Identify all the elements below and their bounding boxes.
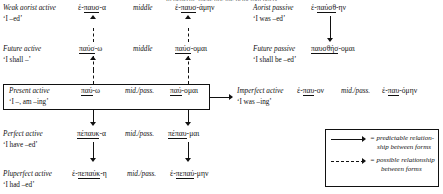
pluperfect-voice-midpass: mid./pass. — [127, 170, 156, 178]
imperfect-midpass-form: ἐ-παυ-όμην — [382, 87, 417, 96]
present-midpass-stem: παύ — [170, 86, 182, 96]
weak-aorist-active-form: ἐ-παυσ-α — [78, 4, 106, 13]
arrow-down-pluperfect-midpass — [185, 158, 191, 162]
aorist-passive-prefix: ἐ- — [311, 3, 317, 12]
aorist-passive-label: Aorist passive — [253, 4, 294, 13]
imperfect-voice-midpass: mid./pass. — [341, 87, 370, 95]
pluperfect-active-ending: -η — [100, 169, 107, 178]
perfect-midpass-stem: πέπαυ — [168, 129, 187, 139]
legend-dashed-arrowhead — [362, 158, 366, 164]
weak-aorist-middle-stem: παυσ — [181, 3, 197, 13]
imperfect-gloss: ‘I was –ing’ — [237, 98, 272, 107]
weak-aorist-active-stem: παυσ — [84, 3, 100, 13]
future-active-label: Future active — [3, 45, 41, 54]
arrow-down-future-passive — [327, 38, 333, 42]
perfect-active-stem: πέπαυκ — [77, 129, 99, 139]
legend-solid-arrowhead — [362, 136, 366, 142]
aorist-passive-stem: παύσθ — [317, 3, 336, 13]
legend-solid-text-line2: ship between forms — [377, 143, 431, 151]
legend-solid-line-sample — [331, 139, 364, 140]
future-middle-form: παύσ-ομαι — [175, 45, 207, 54]
arrow-up-aorist-active — [90, 15, 96, 19]
perfect-voice-midpass: mid./pass. — [125, 130, 154, 138]
weak-aorist-active-ending: -α — [99, 3, 106, 12]
weak-aorist-middle-form: ἐ-παυσ-άμην — [175, 4, 214, 13]
weak-aorist-active-gloss: ‘I –ed’ — [3, 15, 22, 24]
weak-aorist-active-label: Weak aorist active — [3, 4, 56, 13]
future-voice-middle: middle — [133, 45, 153, 53]
legend-dashed-line-sample — [331, 161, 364, 162]
arrow-down-pluperfect-active — [90, 158, 96, 162]
dashed-connector-segment-future-middle — [188, 56, 189, 70]
future-passive-label: Future passive — [253, 45, 295, 54]
perfect-midpass-form: πέπαυ-μαι — [168, 130, 199, 139]
pluperfect-midpass-prefix: ἐ- — [170, 169, 176, 178]
present-active-label: Present active — [9, 87, 50, 96]
diagram-canvas: In general, these are the principal part… — [0, 0, 443, 194]
imperfect-active-prefix: ἐ- — [297, 86, 303, 95]
imperfect-midpass-prefix: ἐ- — [382, 86, 388, 95]
weak-aorist-voice-middle: middle — [133, 4, 153, 12]
dashed-connector-present-to-future-middle — [188, 70, 189, 84]
present-active-gloss: ‘I –, am –ing’ — [9, 98, 49, 107]
future-active-gloss: ‘I shall –’ — [3, 56, 31, 65]
dashed-connector-future-to-aorist-middle — [188, 28, 189, 42]
arrow-up-aorist-middle — [185, 15, 191, 19]
future-active-stem: παύσ — [79, 44, 95, 54]
pluperfect-active-prefix: ἐ- — [72, 169, 78, 178]
solid-connector-aorist-to-future-passive — [330, 16, 331, 40]
imperfect-midpass-ending: -όμην — [399, 86, 417, 95]
pluperfect-active-label: Pluperfect active — [3, 170, 52, 179]
present-midpass-ending: -ομαι — [182, 86, 198, 95]
future-passive-ending: -ομαι — [338, 44, 354, 53]
future-passive-form: παυσθήσ-ομαι — [311, 45, 355, 54]
arrow-down-perfect-active — [90, 122, 96, 126]
legend-dashed-text-line1: = possible relationship — [370, 156, 435, 164]
weak-aorist-active-prefix: ἐ- — [78, 3, 84, 12]
perfect-midpass-ending: -μαι — [187, 129, 200, 138]
future-active-form: παύσ-ω — [79, 45, 102, 54]
imperfect-active-label: Imperfect active — [237, 87, 284, 96]
weak-aorist-middle-ending: -άμην — [196, 3, 214, 12]
perfect-active-form: πέπαυκ-α — [77, 130, 106, 139]
pluperfect-midpass-ending: -μην — [194, 169, 208, 178]
pluperfect-midpass-form: ἐ-πεπαύ-μην — [170, 170, 208, 179]
dashed-connector-segment-future-active — [93, 56, 94, 70]
pluperfect-active-gloss: ‘I had –ed’ — [3, 181, 35, 190]
arrow-down-perfect-midpass — [185, 122, 191, 126]
pluperfect-active-stem: πεπαύκ — [78, 169, 100, 179]
perfect-active-ending: -α — [99, 129, 106, 138]
imperfect-active-stem: παυ — [303, 86, 315, 96]
imperfect-active-form: ἐ-παυ-ον — [297, 87, 324, 96]
future-passive-gloss: ‘I shall be –ed’ — [253, 56, 296, 65]
aorist-passive-form: ἐ-παύσθ-ην — [311, 4, 346, 13]
legend-dashed-text-line2: between forms — [381, 165, 422, 173]
present-active-stem: παύ — [81, 86, 93, 96]
weak-aorist-middle-prefix: ἐ- — [175, 3, 181, 12]
dashed-connector-future-to-aorist-active — [93, 28, 94, 42]
pluperfect-midpass-stem: πεπαύ — [176, 169, 195, 179]
dashed-connector-present-to-future-active — [93, 70, 94, 84]
perfect-active-gloss: ‘I have –ed’ — [3, 141, 38, 150]
present-voice-midpass: mid./pass. — [125, 87, 154, 95]
future-middle-ending: -ομαι — [191, 44, 207, 53]
aorist-passive-ending: -ην — [336, 3, 346, 12]
arrow-right-imperfect — [229, 94, 233, 100]
future-middle-stem: παύσ — [175, 44, 191, 54]
future-active-ending: -ω — [95, 44, 103, 53]
clipped-header-text: In general, these are the principal part… — [0, 0, 443, 1]
aorist-passive-gloss: ‘I was –ed’ — [253, 15, 285, 24]
imperfect-active-ending: -ον — [314, 86, 324, 95]
perfect-active-label: Perfect active — [3, 130, 43, 139]
present-active-ending: -ω — [93, 86, 101, 95]
pluperfect-active-form: ἐ-πεπαύκ-η — [72, 170, 107, 179]
future-passive-stem: παυσθήσ — [311, 44, 338, 54]
present-midpass-form: παύ-ομαι — [170, 87, 198, 96]
imperfect-midpass-stem: παυ — [388, 86, 400, 96]
present-active-form: παύ-ω — [81, 87, 100, 96]
legend-solid-text-line1: = predictable relation- — [370, 134, 434, 142]
